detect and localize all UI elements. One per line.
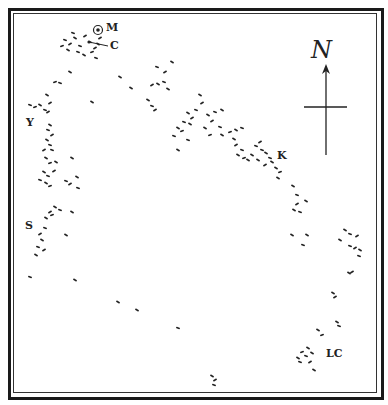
site-mark bbox=[348, 233, 352, 236]
site-mark bbox=[335, 320, 339, 323]
site-mark bbox=[203, 126, 207, 129]
site-mark bbox=[116, 300, 120, 303]
site-mark bbox=[66, 48, 70, 51]
site-mark bbox=[256, 158, 260, 161]
site-mark bbox=[291, 184, 295, 187]
site-mark bbox=[220, 133, 224, 136]
site-mark bbox=[73, 36, 77, 39]
site-mark bbox=[274, 166, 278, 169]
site-mark bbox=[146, 98, 150, 101]
site-mark bbox=[48, 101, 52, 104]
site-mark bbox=[357, 255, 361, 258]
label-lc: LC bbox=[326, 348, 343, 359]
site-mark bbox=[338, 238, 342, 241]
site-mark bbox=[50, 149, 54, 152]
site-mark bbox=[42, 148, 46, 151]
site-mark bbox=[48, 185, 52, 188]
site-mark bbox=[212, 384, 216, 387]
site-mark bbox=[292, 208, 296, 211]
site-mark bbox=[63, 39, 67, 42]
site-mark bbox=[28, 104, 32, 107]
site-mark bbox=[38, 232, 42, 235]
site-mark bbox=[70, 156, 74, 159]
site-mark bbox=[82, 53, 86, 56]
site-mark bbox=[208, 134, 212, 137]
site-mark bbox=[170, 60, 174, 63]
site-mark bbox=[250, 153, 254, 156]
site-mark bbox=[263, 163, 267, 166]
site-mark bbox=[350, 270, 354, 273]
site-mark bbox=[78, 45, 82, 48]
site-mark bbox=[162, 81, 166, 84]
site-mark bbox=[298, 361, 302, 364]
site-mark bbox=[270, 160, 274, 163]
site-mark bbox=[301, 244, 305, 247]
north-label: N bbox=[311, 38, 332, 62]
site-mark bbox=[278, 171, 282, 174]
site-mark bbox=[333, 295, 337, 298]
label-m: M bbox=[106, 22, 118, 33]
site-mark bbox=[348, 245, 352, 248]
site-mark bbox=[93, 46, 97, 49]
site-mark bbox=[236, 153, 240, 156]
site-mark bbox=[54, 160, 58, 163]
site-mark bbox=[28, 276, 32, 279]
site-mark bbox=[71, 32, 75, 35]
site-mark bbox=[48, 123, 52, 126]
site-mark bbox=[75, 175, 79, 178]
site-mark bbox=[337, 325, 341, 328]
site-mark bbox=[94, 57, 98, 60]
site-mark bbox=[295, 194, 299, 197]
site-mark bbox=[300, 351, 304, 354]
site-mark bbox=[70, 210, 74, 213]
site-mark bbox=[90, 100, 94, 103]
site-mark bbox=[268, 157, 272, 160]
site-mark bbox=[234, 128, 238, 131]
site-mark bbox=[186, 139, 190, 142]
site-mark bbox=[304, 199, 308, 202]
site-mark bbox=[213, 378, 217, 381]
site-mark bbox=[68, 70, 72, 73]
site-mark bbox=[64, 180, 68, 183]
site-mark bbox=[68, 42, 72, 45]
site-mark bbox=[46, 129, 50, 132]
site-mark bbox=[34, 253, 38, 256]
site-mark bbox=[194, 109, 198, 112]
site-mark bbox=[182, 121, 186, 124]
site-mark bbox=[246, 158, 250, 161]
site-mark bbox=[48, 162, 52, 165]
site-mark bbox=[44, 156, 48, 159]
site-mark bbox=[353, 246, 357, 249]
site-mark bbox=[232, 137, 236, 140]
site-mark bbox=[52, 169, 56, 172]
site-mark bbox=[312, 368, 316, 371]
site-mark bbox=[200, 101, 204, 104]
site-mark bbox=[176, 126, 180, 129]
site-mark bbox=[36, 246, 40, 249]
site-mark bbox=[220, 108, 224, 111]
site-mark bbox=[213, 111, 217, 114]
site-mark bbox=[343, 228, 347, 231]
label-c: C bbox=[110, 40, 119, 51]
site-mark bbox=[240, 127, 244, 130]
site-mark bbox=[206, 113, 210, 116]
site-mark bbox=[172, 135, 176, 138]
site-mark bbox=[320, 334, 324, 337]
site-mark bbox=[45, 138, 49, 141]
bullseye-icon bbox=[94, 26, 103, 35]
site-mark bbox=[90, 51, 94, 54]
site-mark bbox=[156, 82, 160, 85]
site-mark bbox=[42, 170, 46, 173]
site-mark bbox=[228, 131, 232, 134]
site-mark bbox=[76, 51, 80, 54]
site-mark bbox=[358, 248, 362, 251]
site-mark bbox=[83, 34, 87, 37]
site-mark bbox=[43, 109, 47, 112]
site-mark bbox=[129, 86, 133, 89]
site-mark bbox=[316, 328, 320, 331]
site-mark bbox=[33, 106, 37, 109]
site-mark bbox=[166, 87, 170, 90]
label-s: S bbox=[25, 220, 33, 231]
site-mark bbox=[295, 202, 299, 205]
site-mark bbox=[42, 248, 46, 251]
